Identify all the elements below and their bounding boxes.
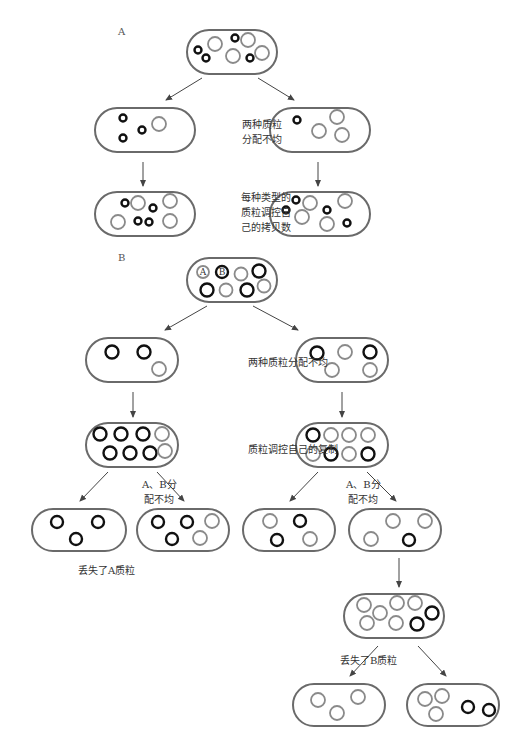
label-line: 配不均 [142,492,177,507]
bacterial-cell [407,684,499,726]
bacterial-cell [32,509,126,551]
label-line: 丢失了A质粒 [78,563,135,578]
label-line: 两种质粒 [242,117,282,132]
bacterial-cell [86,423,178,467]
arrow [258,78,294,100]
label-b-ab-uneven-right: A、B分配不均 [346,477,381,507]
plasmid-label: B [219,267,226,277]
plasmid-incompatibility-diagram: AB [0,0,530,754]
arrow [165,306,207,330]
cell-outline [243,509,335,551]
arrow [80,472,108,501]
bacterial-cell [349,509,441,551]
label-a-uneven: 两种质粒分配不均 [242,117,282,147]
bacterial-cell [344,594,444,638]
cell-outline [95,192,195,236]
arrow [253,306,298,330]
bacterial-cell [95,108,195,152]
label-line: 分配不均 [242,132,282,147]
label-a-copy-control: 每种类型的质粒调控自己的拷贝数 [241,190,291,235]
label-line: 丢失了B质粒 [340,653,397,668]
label-line: 配不均 [346,492,381,507]
cell-outline [86,338,178,382]
arrow [418,646,446,676]
label-line: A、B分 [346,477,381,492]
label-line: 己的拷贝数 [241,220,291,235]
label-line: 质粒调控自己的复制 [248,442,338,457]
label-b-uneven: 两种质粒分配不均 [248,355,328,370]
plasmid-label: A [199,267,207,277]
arrow [290,472,318,501]
label-line: A、B分 [142,477,177,492]
bacterial-cell [187,30,277,74]
cell-outline [270,108,370,152]
bacterial-cell [270,108,370,152]
panel-letter-a: A [118,26,125,37]
label-line: 两种质粒分配不均 [248,355,328,370]
label-line: 每种类型的 [241,190,291,205]
panel-letter-b: B [118,252,125,263]
arrow [166,78,202,100]
bacterial-cell [293,684,385,726]
label-line: 质粒调控自 [241,205,291,220]
bacterial-cell [86,338,178,382]
bacterial-cell [243,509,335,551]
bacterial-cell [137,509,229,551]
label-b-lost-b: 丢失了B质粒 [340,653,397,668]
label-b-ab-uneven-left: A、B分配不均 [142,477,177,507]
bacterial-cell: AB [187,258,277,302]
label-b-replication: 质粒调控自己的复制 [248,442,338,457]
bacterial-cell [95,192,195,236]
label-b-lost-a: 丢失了A质粒 [78,563,135,578]
